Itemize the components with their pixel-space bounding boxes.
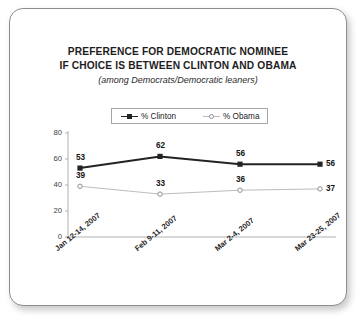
x-axis-tick-label: Mar 23-25, 2007 <box>293 211 342 253</box>
x-axis-tick-label: Mar 2-4, 2007 <box>213 216 256 253</box>
x-axis-tick-label: Feb 9-11, 2007 <box>133 214 179 253</box>
x-axis-labels: Jan 12-14, 2007Feb 9-11, 2007Mar 2-4, 20… <box>10 9 346 305</box>
x-axis-tick-label: Jan 12-14, 2007 <box>53 211 102 253</box>
chart-card: PREFERENCE FOR DEMOCRATIC NOMINEE IF CHO… <box>9 8 347 306</box>
